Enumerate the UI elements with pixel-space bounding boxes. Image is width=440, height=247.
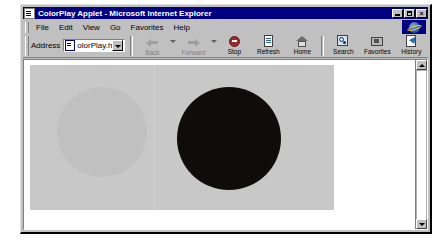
window-app-icon (24, 8, 35, 19)
scroll-up-icon[interactable] (416, 60, 427, 70)
menu-item-file[interactable]: File (31, 22, 54, 33)
applet-seam (154, 65, 155, 210)
menu-item-view[interactable]: View (78, 22, 105, 33)
window-title: ColorPlay Applet - Microsoft Internet Ex… (38, 9, 392, 18)
menu-item-edit[interactable]: Edit (54, 22, 78, 33)
colorplay-applet[interactable] (30, 65, 334, 210)
toolbar-separator (130, 36, 133, 56)
menu-item-favorites[interactable]: Favorites (126, 22, 169, 33)
home-button[interactable]: Home (285, 34, 319, 57)
title-bar[interactable]: ColorPlay Applet - Microsoft Internet Ex… (23, 7, 428, 19)
address-dropdown-button[interactable] (112, 40, 123, 51)
back-button-label: Back (145, 49, 159, 57)
search-button-label: Search (333, 48, 354, 56)
stop-button-label: Stop (228, 48, 241, 56)
scrollbar-thumb[interactable] (416, 70, 427, 220)
left-circle[interactable] (57, 87, 147, 177)
right-circle[interactable] (177, 87, 281, 190)
search-icon (336, 35, 351, 48)
forward-dropdown-icon[interactable] (210, 35, 217, 48)
address-label: Address (31, 41, 60, 50)
forward-button-label: Forward (181, 49, 205, 57)
back-arrow-icon (145, 36, 160, 49)
toolbar-separator-2 (321, 36, 324, 56)
nav-buttons: Back Forward (135, 34, 217, 58)
favorites-button-label: Favorites (364, 48, 391, 56)
back-dropdown-icon[interactable] (169, 35, 176, 48)
toolbar: Address olorPlay.html Back Forward Stop (23, 34, 428, 58)
home-button-label: Home (294, 48, 311, 56)
favorites-icon (370, 35, 385, 48)
search-button[interactable]: Search (326, 34, 360, 57)
address-combo[interactable]: olorPlay.html (63, 39, 125, 52)
page-icon (65, 40, 75, 51)
address-bar: Address olorPlay.html (31, 39, 128, 52)
history-button[interactable]: History (394, 34, 428, 57)
history-button-label: History (401, 48, 421, 56)
page-area (23, 59, 428, 230)
refresh-button-label: Refresh (257, 48, 280, 56)
ie-logo-container (402, 20, 426, 34)
vertical-scrollbar[interactable] (415, 60, 427, 229)
stop-button[interactable]: Stop (217, 34, 251, 57)
menu-grip[interactable] (25, 22, 29, 33)
refresh-button[interactable]: Refresh (251, 34, 285, 57)
menu-item-go[interactable]: Go (105, 22, 126, 33)
back-button[interactable]: Back (135, 35, 169, 58)
close-icon: × (417, 10, 426, 18)
stop-icon (227, 35, 242, 48)
window-controls: × (392, 9, 427, 18)
forward-button[interactable]: Forward (176, 35, 210, 58)
home-icon (295, 35, 310, 48)
maximize-button[interactable] (404, 9, 415, 18)
toolbar-grip[interactable] (25, 36, 29, 56)
document-canvas (24, 60, 415, 229)
minimize-button[interactable] (392, 9, 403, 18)
internet-explorer-logo-icon (409, 22, 420, 33)
favorites-button[interactable]: Favorites (360, 34, 394, 57)
refresh-icon (261, 35, 276, 48)
scroll-down-icon[interactable] (416, 219, 427, 229)
browser-window: ColorPlay Applet - Microsoft Internet Ex… (20, 4, 432, 234)
forward-arrow-icon (186, 36, 201, 49)
menu-bar: File Edit View Go Favorites Help (23, 20, 428, 34)
address-input[interactable]: olorPlay.html (77, 41, 112, 50)
menu-item-help[interactable]: Help (168, 22, 194, 33)
close-button[interactable]: × (416, 9, 427, 18)
history-icon (404, 35, 419, 48)
